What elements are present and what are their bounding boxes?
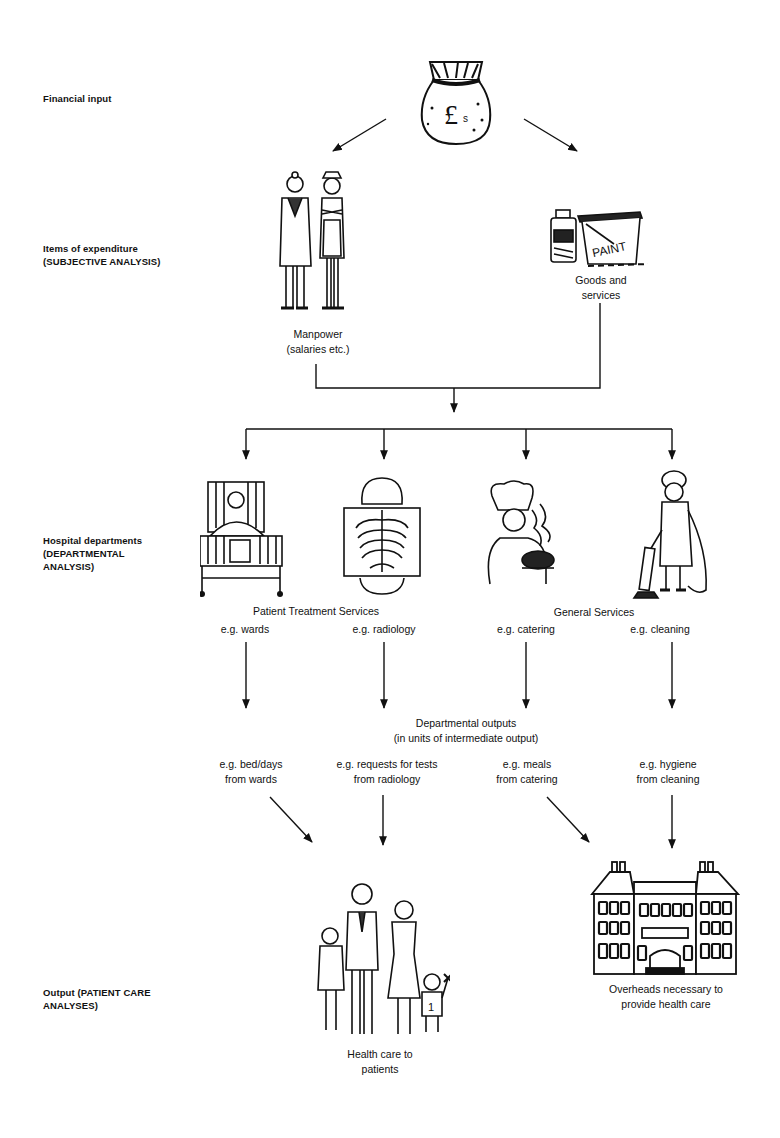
output-line: from catering [496, 772, 557, 787]
caption-line: patients [347, 1062, 412, 1077]
caption-line: Health care to [347, 1047, 412, 1062]
heading-line: Departmental outputs [394, 716, 539, 731]
department-radiology: e.g. radiology [352, 622, 415, 637]
group-label-general-services: General Services [554, 605, 635, 620]
hospital-building-icon [590, 860, 740, 978]
heading-line: (in units of intermediate output) [394, 731, 539, 746]
caption-line: Overheads necessary to [609, 982, 723, 997]
department-wards: e.g. wards [221, 622, 269, 637]
chef-icon [484, 480, 558, 586]
patients-caption: Health care to patients [347, 1047, 412, 1077]
output-beddays: e.g. bed/days from wards [219, 757, 282, 787]
caption-line: services [575, 288, 626, 303]
x-ray-icon [340, 474, 424, 598]
overheads-caption: Overheads necessary to provide health ca… [609, 982, 723, 1012]
output-line: e.g. bed/days [219, 757, 282, 772]
output-meals: e.g. meals from catering [496, 757, 557, 787]
family-icon: 1 [316, 880, 450, 1044]
merge-connector [316, 303, 600, 388]
departmental-outputs-heading: Departmental outputs (in units of interm… [394, 716, 539, 746]
caption-line: (salaries etc.) [286, 342, 349, 357]
output-line: from cleaning [636, 772, 699, 787]
svg-text:£: £ [444, 99, 458, 130]
doctor-and-nurse-icon [278, 168, 352, 320]
hospital-bed-icon [200, 478, 286, 598]
department-cleaning: e.g. cleaning [630, 622, 690, 637]
output-line: e.g. meals [496, 757, 557, 772]
caption-line: provide health care [609, 997, 723, 1012]
svg-text:s: s [463, 113, 468, 124]
arrow-beddays-to-patients [270, 797, 312, 842]
caption-line: Goods and [575, 273, 626, 288]
medicine-bottle-and-paint-can-icon: PAINT [548, 208, 650, 270]
arrow-to-goods [524, 119, 577, 151]
output-line: e.g. requests for tests [337, 757, 438, 772]
output-hygiene: e.g. hygiene from cleaning [636, 757, 699, 787]
goods-caption: Goods and services [575, 273, 626, 303]
money-bag-pound-icon: £ s [418, 58, 494, 146]
department-catering: e.g. catering [497, 622, 555, 637]
svg-text:1: 1 [428, 1001, 434, 1013]
arrow-meals-to-overheads [547, 797, 589, 842]
output-line: e.g. hygiene [636, 757, 699, 772]
group-label-patient-treatment: Patient Treatment Services [253, 604, 379, 619]
output-line: from radiology [337, 772, 438, 787]
caption-line: Manpower [286, 327, 349, 342]
output-line: from wards [219, 772, 282, 787]
output-tests: e.g. requests for tests from radiology [337, 757, 438, 787]
cleaner-with-vacuum-icon [632, 470, 710, 604]
manpower-caption: Manpower (salaries etc.) [286, 327, 349, 357]
arrow-to-manpower [333, 119, 386, 151]
